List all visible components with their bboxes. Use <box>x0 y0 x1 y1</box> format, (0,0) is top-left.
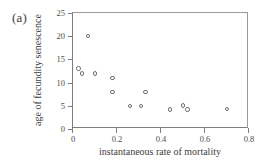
y-tick-label: 25 <box>57 8 66 19</box>
data-point <box>168 107 172 111</box>
x-tick-label: 0.8 <box>244 134 255 145</box>
data-point <box>128 104 132 108</box>
panel-label: (a) <box>12 10 27 26</box>
y-tick-label: 0 <box>61 124 65 135</box>
plot-frame: 0510152025 <box>72 12 248 128</box>
data-point <box>139 104 143 108</box>
x-tick: 0 <box>72 128 73 133</box>
data-point <box>143 90 147 94</box>
data-point <box>93 71 97 75</box>
figure-panel: (a) age of fecundity senescence 05101520… <box>0 0 271 167</box>
x-tick: 0.2 <box>116 128 117 133</box>
data-point <box>185 107 189 111</box>
scatter-plot-area <box>73 13 247 127</box>
data-point <box>86 34 90 38</box>
x-tick-label: 0.6 <box>200 134 211 145</box>
x-axis-label: instantaneous rate of mortality <box>72 146 248 157</box>
data-point <box>110 90 114 94</box>
data-point <box>110 76 114 80</box>
y-tick-label: 20 <box>57 31 66 42</box>
y-tick-label: 15 <box>57 54 66 65</box>
y-tick-label: 5 <box>61 101 65 112</box>
data-point <box>225 107 229 111</box>
data-point <box>76 66 80 70</box>
y-axis-label-container: age of fecundity senescence <box>30 12 44 128</box>
y-tick-label: 10 <box>57 78 66 89</box>
x-tick: 0.6 <box>204 128 205 133</box>
x-tick: 0.4 <box>160 128 161 133</box>
y-axis-label: age of fecundity senescence <box>32 14 43 126</box>
x-tick-label: 0.4 <box>156 134 167 145</box>
x-axis-ticks: 00.20.40.60.8 <box>72 128 248 129</box>
x-tick: 0.8 <box>248 128 249 133</box>
x-tick-label: 0.2 <box>112 134 123 145</box>
x-tick-label: 0 <box>71 134 75 145</box>
data-point <box>80 71 84 75</box>
